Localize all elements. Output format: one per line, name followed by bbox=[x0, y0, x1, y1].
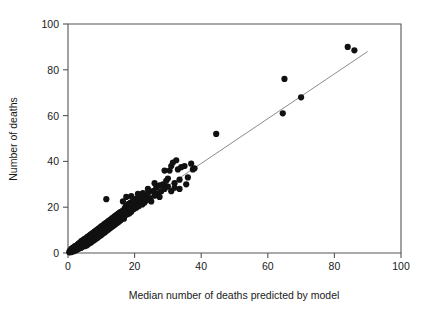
y-axis-label: Number of deaths bbox=[7, 97, 19, 180]
data-point bbox=[151, 180, 157, 186]
data-point bbox=[176, 177, 182, 183]
y-tick-label: 60 bbox=[47, 110, 59, 122]
y-tick-label: 40 bbox=[47, 155, 59, 167]
x-tick-label: 40 bbox=[195, 260, 207, 272]
y-tick-label: 80 bbox=[47, 64, 59, 76]
scatter-plot-figure: 020406080100 020406080100 Median number … bbox=[0, 0, 426, 310]
data-point bbox=[165, 175, 171, 181]
x-tick-label: 0 bbox=[65, 260, 71, 272]
data-point bbox=[280, 110, 286, 116]
data-point bbox=[298, 94, 304, 100]
data-point bbox=[173, 157, 179, 163]
data-point bbox=[345, 44, 351, 50]
data-point bbox=[145, 186, 151, 192]
x-tick-label: 100 bbox=[392, 260, 410, 272]
data-point bbox=[128, 193, 134, 199]
data-point bbox=[351, 47, 357, 53]
data-point bbox=[281, 76, 287, 82]
data-point bbox=[148, 198, 154, 204]
y-tick-label: 0 bbox=[53, 247, 59, 259]
x-axis-label: Median number of deaths predicted by mod… bbox=[129, 289, 340, 301]
data-point bbox=[213, 131, 219, 137]
data-point bbox=[156, 194, 162, 200]
data-point bbox=[185, 174, 191, 180]
x-tick-label: 80 bbox=[329, 260, 341, 272]
y-tick-label: 20 bbox=[47, 201, 59, 213]
x-tick-label: 20 bbox=[129, 260, 141, 272]
data-point bbox=[191, 165, 197, 171]
data-point bbox=[103, 196, 109, 202]
y-tick-label: 100 bbox=[41, 18, 59, 30]
data-point bbox=[181, 163, 187, 169]
data-point bbox=[161, 167, 167, 173]
data-point bbox=[183, 181, 189, 187]
data-point bbox=[140, 190, 146, 196]
data-point bbox=[176, 186, 182, 192]
x-tick-label: 60 bbox=[262, 260, 274, 272]
